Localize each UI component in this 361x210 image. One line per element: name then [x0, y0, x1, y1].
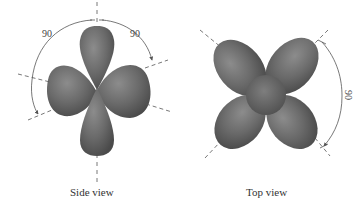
top-view-caption: Top view [246, 186, 287, 198]
side-ref-line-left-upper [18, 74, 50, 82]
top-center-sphere [246, 75, 286, 115]
side-ref-line-left-lower [28, 110, 52, 120]
side-ref-line-right-upper [145, 60, 168, 68]
side-angle-label-left: 90 [42, 28, 52, 39]
side-view-caption: Side view [70, 186, 114, 198]
top-angle-label: 90 [343, 90, 354, 100]
side-view-panel: 90 90 [18, 2, 172, 186]
side-angle-label-right: 90 [130, 28, 140, 39]
top-arc-tick-upper [318, 40, 326, 44]
top-view-panel: 90 [200, 27, 354, 159]
orbital-diagram: 90 90 90 [0, 0, 361, 210]
top-angle-arc [322, 42, 342, 146]
side-ref-line-right-lower [146, 104, 172, 112]
